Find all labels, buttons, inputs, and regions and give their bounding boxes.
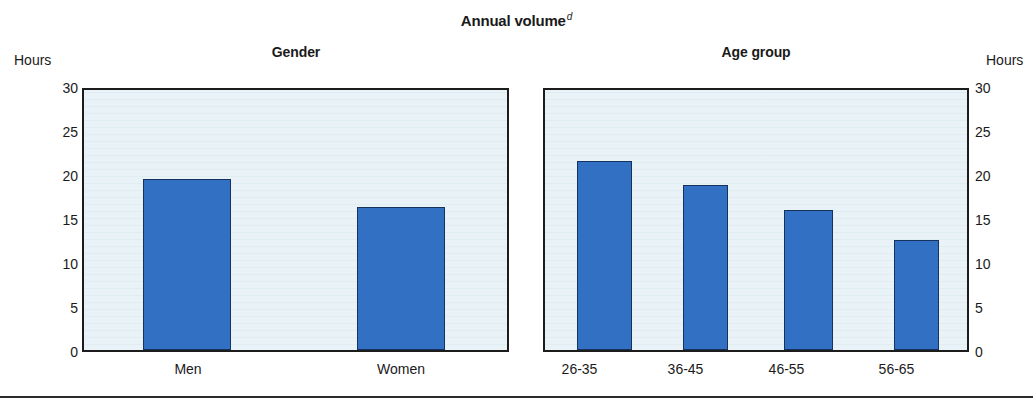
- category-label-26-35: 26-35: [547, 361, 612, 377]
- category-label-46-55: 46-55: [754, 361, 819, 377]
- panel-title-age-group: Age group: [543, 44, 969, 60]
- chart-panel-age-group: Age group 26-3536-4546-5556-65: [520, 0, 1033, 400]
- y-tick-label-left: 30: [48, 81, 78, 95]
- page-bottom-rule: [0, 396, 1033, 398]
- bar-36-45[interactable]: [683, 185, 728, 350]
- category-label-36-45: 36-45: [653, 361, 718, 377]
- category-label-men: Men: [144, 361, 232, 377]
- y-tick-label-right: 10: [975, 257, 1005, 271]
- y-axis-caption-right: Hours: [986, 52, 1023, 68]
- bar-men[interactable]: [143, 179, 231, 350]
- y-tick-label-right: 15: [975, 213, 1005, 227]
- y-tick-label-right: 0: [975, 345, 1005, 359]
- y-tick-label-left: 0: [48, 345, 78, 359]
- y-tick-label-left: 20: [48, 169, 78, 183]
- y-tick-label-right: 30: [975, 81, 1005, 95]
- y-tick-label-right: 20: [975, 169, 1005, 183]
- category-label-women: Women: [357, 361, 445, 377]
- y-tick-label-left: 10: [48, 257, 78, 271]
- y-axis-ticks-right: 051015202530: [975, 88, 1009, 352]
- y-tick-label-left: 5: [48, 301, 78, 315]
- y-tick-label-left: 25: [48, 125, 78, 139]
- bar-46-55[interactable]: [784, 210, 833, 350]
- chart-panel-gender: Gender Hours 051015202530 MenWomen: [0, 0, 520, 400]
- y-tick-label-right: 25: [975, 125, 1005, 139]
- bar-56-65[interactable]: [894, 240, 939, 350]
- category-label-56-65: 56-65: [864, 361, 929, 377]
- bar-26-35[interactable]: [577, 161, 632, 350]
- plot-area-gender: [82, 88, 509, 352]
- y-axis-caption-left: Hours: [14, 52, 51, 68]
- bar-women[interactable]: [357, 207, 445, 350]
- y-axis-ticks-left: 051015202530: [44, 88, 78, 352]
- y-tick-label-left: 15: [48, 213, 78, 227]
- plot-area-age-group: [543, 88, 969, 352]
- panel-title-gender: Gender: [83, 44, 509, 60]
- y-tick-label-right: 5: [975, 301, 1005, 315]
